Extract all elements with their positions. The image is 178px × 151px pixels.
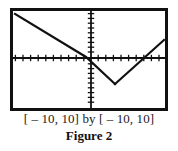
- figure-container: [ – 10, 10] by [ – 10, 10] Figure 2: [0, 0, 178, 151]
- viewing-window-range: [ – 10, 10] by [ – 10, 10]: [0, 111, 178, 127]
- graph-plot: [13, 11, 165, 108]
- figure-number-label: Figure 2: [0, 128, 178, 144]
- graphing-calculator-screen: [10, 8, 168, 111]
- figure-caption: [ – 10, 10] by [ – 10, 10] Figure 2: [0, 111, 178, 144]
